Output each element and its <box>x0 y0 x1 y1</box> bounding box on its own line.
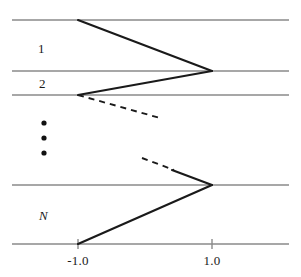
x-axis-label-0: -1.0 <box>61 253 95 269</box>
band-n-dashed-continuation <box>142 158 174 170</box>
solid-curve-segments <box>78 20 212 244</box>
plot-svg <box>0 0 301 277</box>
vertical-ellipsis-dots <box>41 120 46 155</box>
band-1-upper-branch <box>78 20 212 71</box>
x-axis-label-1: 1.0 <box>195 253 229 269</box>
dashed-curve-segments <box>78 95 174 170</box>
band-1-lower-branch <box>78 71 212 95</box>
band-label-n: N <box>39 208 48 224</box>
band-n-upper-branch <box>172 170 212 185</box>
figure-canvas: 12N -1.01.0 <box>0 0 301 277</box>
ellipsis-dot-2 <box>41 150 46 155</box>
horizontal-level-lines <box>12 20 289 244</box>
band-label-1: 1 <box>38 41 45 57</box>
band-n-lower-branch <box>78 185 212 244</box>
ellipsis-dot-0 <box>41 120 46 125</box>
band-label-2: 2 <box>39 76 46 92</box>
band-2-dashed-continuation <box>78 95 160 118</box>
ellipsis-dot-1 <box>41 135 46 140</box>
